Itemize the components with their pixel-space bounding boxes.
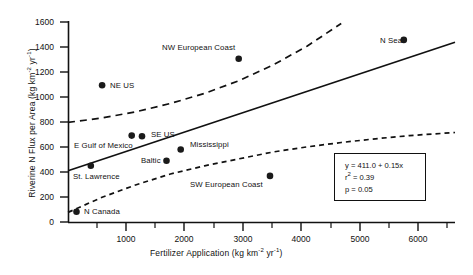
y-tick-label-800: 800 [20, 117, 54, 127]
x-axis-minor-ticks [97, 223, 447, 229]
data-point-ne-us [99, 82, 106, 89]
point-label-n-sea: N Sea [380, 36, 402, 45]
x-tick-label-5000: 5000 [340, 234, 380, 244]
point-label-mississippi: Mississippi [190, 140, 229, 149]
y-tick-label-1600: 1600 [20, 17, 54, 27]
x-axis-title: Fertilizer Application (kg km-2 yr-1) [150, 248, 282, 258]
y-axis-title: Riverine N Flux per Area (kg km-2 yr-1) [27, 28, 37, 218]
regression-fit-line [68, 42, 455, 170]
y-axis-title-sup2: -1 [26, 51, 32, 57]
data-point-mississippi [177, 146, 184, 153]
y-tick-label-1400: 1400 [20, 42, 54, 52]
y-tick-label-400: 400 [20, 167, 54, 177]
y-tick-label-1000: 1000 [20, 92, 54, 102]
point-label-n-canada: N Canada [84, 207, 120, 216]
x-axis-title-end: ) [279, 248, 282, 258]
y-axis-title-mid: yr [27, 57, 37, 67]
point-label-e-gulf-of-mexico: E Gulf of Mexico [74, 141, 133, 150]
y-tick-label-1200: 1200 [20, 67, 54, 77]
y-axis-title-sup1: -2 [26, 67, 32, 73]
y-tick-label-600: 600 [20, 142, 54, 152]
x-axis-title-main: Fertilizer Application (kg km [150, 248, 258, 258]
x-tick-label-1000: 1000 [106, 234, 146, 244]
point-label-nw-european-coast: NW European Coast [162, 43, 235, 52]
stat-r-squared: r2 = 0.39 [345, 172, 425, 184]
x-tick-label-6000: 6000 [398, 234, 438, 244]
scatter-plot-figure: 1600 1400 1200 1000 800 600 400 200 0 10… [0, 0, 473, 275]
stat-r-value: = 0.39 [351, 173, 374, 182]
x-tick-label-3000: 3000 [223, 234, 263, 244]
upper-confidence-band [68, 24, 341, 123]
data-point-e-gulf-of-mexico [128, 132, 135, 139]
data-point-baltic [163, 158, 170, 165]
data-point-sw-european-coast [267, 173, 274, 180]
point-label-st-lawrence: St. Lawrence [73, 172, 120, 181]
x-axis-title-mid: yr [264, 248, 274, 258]
statistics-box: y = 411.0 + 0.15x r2 = 0.39 p = 0.05 [334, 153, 426, 201]
data-point-se-us [139, 133, 146, 140]
x-tick-label-4000: 4000 [281, 234, 321, 244]
stat-equation: y = 411.0 + 0.15x [345, 160, 425, 172]
data-point-nw-european-coast [235, 56, 242, 63]
stat-p-value: p = 0.05 [345, 184, 425, 196]
point-label-sw-european-coast: SW European Coast [190, 180, 263, 189]
y-axis-title-end: ) [27, 48, 37, 51]
point-label-baltic: Baltic [141, 156, 161, 165]
y-axis-ticks [60, 22, 69, 222]
point-label-ne-us: NE US [110, 81, 134, 90]
point-label-se-us: SE US [151, 130, 175, 139]
x-tick-label-2000: 2000 [164, 234, 204, 244]
data-point-n-canada [73, 209, 80, 216]
y-axis-title-main: Riverine N Flux per Area (kg km [27, 73, 37, 198]
data-point-st-lawrence [88, 163, 95, 170]
y-tick-label-0: 0 [20, 217, 54, 227]
y-tick-label-200: 200 [20, 192, 54, 202]
